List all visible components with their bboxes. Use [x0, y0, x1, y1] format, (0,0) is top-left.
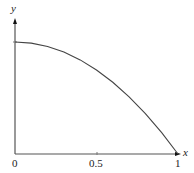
plot-area — [0, 0, 194, 173]
x-axis-label: x — [183, 147, 188, 158]
y-axis-arrow-icon — [13, 18, 17, 24]
x-tick-label-0: 0 — [12, 158, 18, 169]
curve-line — [15, 42, 178, 154]
x-tick-label-1: 1 — [175, 158, 181, 169]
y-axis-label: y — [11, 3, 16, 14]
x-tick-label-0-5: 0.5 — [89, 158, 103, 169]
